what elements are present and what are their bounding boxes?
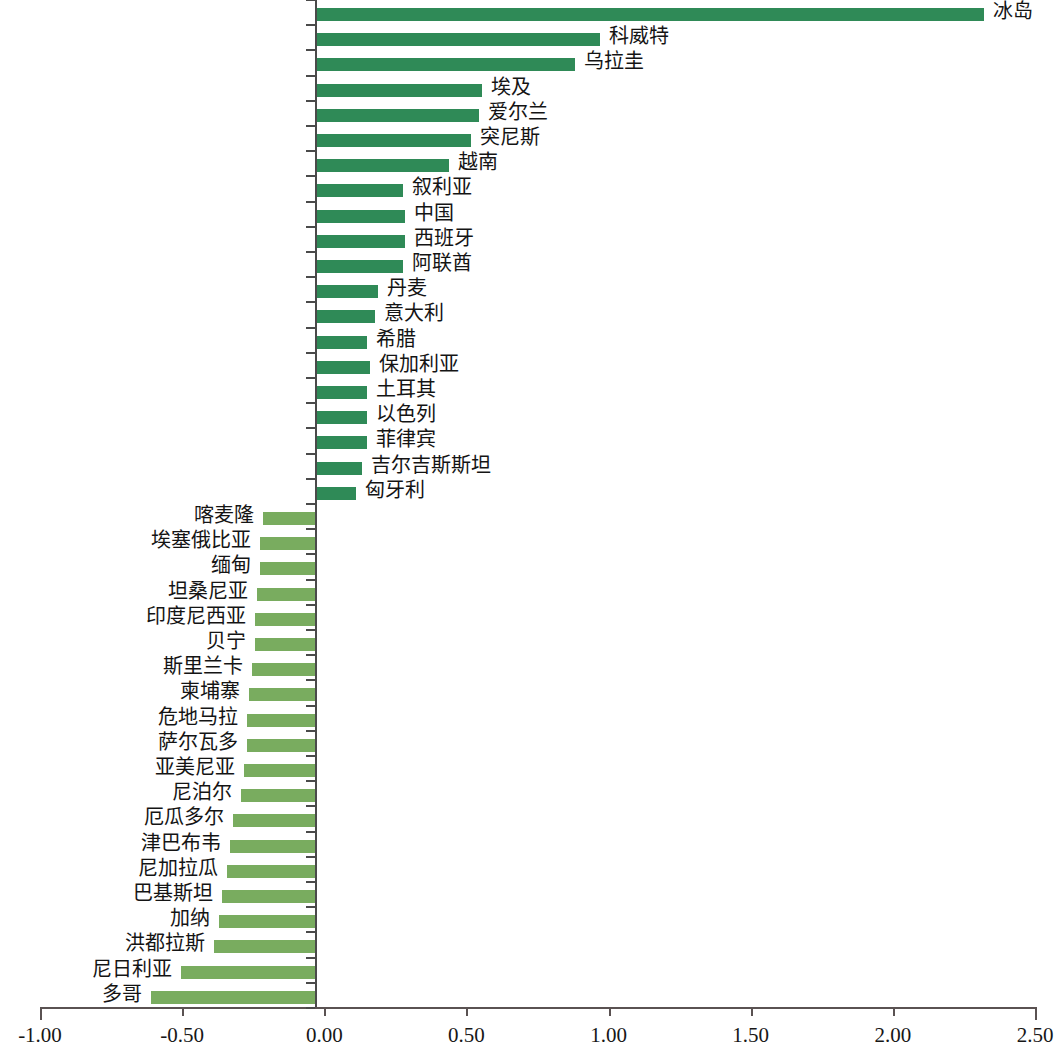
bar-positive [315, 487, 356, 500]
bar-negative [263, 512, 315, 525]
bar-row: 斯里兰卡 [0, 657, 1057, 682]
plot-area: 冰岛科威特乌拉圭埃及爱尔兰突尼斯越南叙利亚中国西班牙阿联酋丹麦意大利希腊保加利亚… [0, 0, 1057, 1000]
bar-category-label: 亚美尼亚 [155, 755, 235, 780]
bar-negative [241, 789, 315, 802]
bar-row: 亚美尼亚 [0, 758, 1057, 783]
y-axis-tick [306, 629, 315, 631]
bar-positive [315, 462, 362, 475]
y-axis-tick [306, 377, 315, 379]
bar-positive [315, 260, 403, 273]
y-axis-tick [306, 453, 315, 455]
y-axis-tick [306, 831, 315, 833]
x-axis-tick [1035, 1007, 1037, 1020]
bar-negative [255, 613, 315, 626]
bar-category-label: 危地马拉 [158, 705, 238, 730]
x-axis-tick [324, 1007, 326, 1016]
bar-row: 突尼斯 [0, 128, 1057, 153]
y-axis-tick [306, 201, 315, 203]
bar-negative [249, 688, 315, 701]
bar-positive [315, 33, 600, 46]
bar-positive [315, 361, 370, 374]
bar-row: 中国 [0, 204, 1057, 229]
bar-category-label: 越南 [458, 150, 498, 175]
bar-category-label: 匈牙利 [365, 478, 425, 503]
bar-negative [151, 991, 315, 1004]
bar-row: 土耳其 [0, 380, 1057, 405]
bar-category-label: 埃塞俄比亚 [151, 528, 251, 553]
bar-row: 叙利亚 [0, 178, 1057, 203]
y-axis-tick [306, 125, 315, 127]
bar-category-label: 爱尔兰 [488, 100, 548, 125]
bar-positive [315, 84, 482, 97]
bar-category-label: 多哥 [102, 982, 142, 1007]
y-axis-tick [306, 251, 315, 253]
bar-row: 匈牙利 [0, 481, 1057, 506]
bar-category-label: 保加利亚 [379, 352, 459, 377]
bar-chart: 冰岛科威特乌拉圭埃及爱尔兰突尼斯越南叙利亚中国西班牙阿联酋丹麦意大利希腊保加利亚… [0, 0, 1057, 1052]
y-axis-tick [306, 654, 315, 656]
bar-row: 贝宁 [0, 632, 1057, 657]
bar-positive [315, 210, 405, 223]
bar-category-label: 萨尔瓦多 [158, 730, 238, 755]
bar-category-label: 尼泊尔 [172, 780, 232, 805]
y-axis-tick [306, 150, 315, 152]
x-axis-tick [609, 1007, 611, 1016]
x-axis-tick-label: 1.00 [549, 1023, 669, 1047]
bar-negative [214, 940, 315, 953]
x-axis-tick-label: 2.00 [833, 1023, 953, 1047]
bar-row: 越南 [0, 153, 1057, 178]
y-axis-tick [306, 226, 315, 228]
y-axis-tick [306, 528, 315, 530]
bar-negative [233, 814, 315, 827]
y-axis-tick [306, 780, 315, 782]
bar-negative [260, 562, 315, 575]
bar-positive [315, 134, 471, 147]
bar-category-label: 西班牙 [414, 226, 474, 251]
bar-category-label: 厄瓜多尔 [144, 805, 224, 830]
bar-negative [255, 638, 315, 651]
y-axis-tick [306, 24, 315, 26]
x-axis-tick-label: 1.50 [691, 1023, 811, 1047]
bar-positive [315, 436, 367, 449]
bar-category-label: 缅甸 [211, 553, 251, 578]
y-axis-tick [306, 478, 315, 480]
bar-positive [315, 336, 367, 349]
y-axis-tick [306, 301, 315, 303]
y-axis-tick [306, 604, 315, 606]
bar-negative [181, 966, 315, 979]
y-axis-tick [306, 352, 315, 354]
bar-category-label: 突尼斯 [480, 125, 540, 150]
bar-row: 菲律宾 [0, 430, 1057, 455]
y-axis-tick [306, 906, 315, 908]
bar-positive [315, 411, 367, 424]
bar-positive [315, 8, 984, 21]
bar-row: 希腊 [0, 330, 1057, 355]
bar-category-label: 土耳其 [376, 377, 436, 402]
bar-negative [227, 865, 315, 878]
y-axis-tick [306, 553, 315, 555]
bar-category-label: 尼加拉瓜 [138, 856, 218, 881]
bar-negative [260, 537, 315, 550]
bar-negative [219, 915, 315, 928]
y-axis-tick [306, 957, 315, 959]
bar-negative [244, 764, 315, 777]
zero-axis-line [315, 0, 317, 1007]
x-axis-tick [40, 1007, 42, 1020]
x-axis-tick-label: -1.00 [0, 1023, 100, 1047]
bar-category-label: 阿联酋 [412, 251, 472, 276]
bar-category-label: 以色列 [376, 402, 436, 427]
bar-positive [315, 58, 575, 71]
bar-category-label: 斯里兰卡 [163, 654, 243, 679]
x-axis-tick-label: 0.50 [406, 1023, 526, 1047]
y-axis-tick [306, 503, 315, 505]
y-axis-tick [306, 75, 315, 77]
y-axis-tick [306, 579, 315, 581]
x-axis-tick-label: -0.50 [122, 1023, 242, 1047]
bar-row: 巴基斯坦 [0, 884, 1057, 909]
bar-category-label: 叙利亚 [412, 175, 472, 200]
bar-positive [315, 159, 449, 172]
x-axis-tick-label: 0.00 [264, 1023, 384, 1047]
y-axis-tick [306, 1007, 315, 1009]
bar-row: 吉尔吉斯斯坦 [0, 456, 1057, 481]
y-axis-tick [306, 730, 315, 732]
